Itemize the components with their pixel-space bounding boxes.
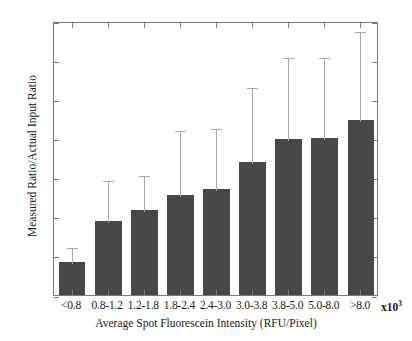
- error-bar-line: [72, 248, 73, 264]
- error-bar-cap: [67, 248, 78, 249]
- x-tick-mark: [216, 290, 217, 295]
- bar: [167, 195, 194, 295]
- y-tick-mark: [54, 257, 59, 258]
- x-tick-label: 5.0-8.0: [306, 299, 342, 311]
- x-tick-mark: [72, 23, 73, 28]
- error-bar-cap: [103, 181, 114, 182]
- y-tick-mark: [54, 101, 59, 102]
- y-tick-mark: [372, 297, 377, 298]
- x-tick-mark: [360, 290, 361, 295]
- x-tick-mark: [288, 23, 289, 28]
- error-bar-line: [324, 58, 325, 140]
- x-tick-mark: [180, 23, 181, 28]
- x-tick-mark: [324, 290, 325, 295]
- y-axis-title: Measured Ratio/Actual Input Ratio: [26, 36, 38, 276]
- x-tick-mark: [144, 23, 145, 28]
- x-tick-mark: [216, 23, 217, 28]
- x-tick-mark: [360, 23, 361, 28]
- y-tick-mark: [372, 23, 377, 24]
- plot-area: [53, 22, 378, 296]
- x-tick-mark: [72, 290, 73, 295]
- bar: [311, 138, 338, 295]
- error-bar-line: [180, 131, 181, 197]
- error-bar-cap: [139, 176, 150, 177]
- bar: [239, 162, 266, 295]
- x-tick-label: 1.2-1.8: [125, 299, 161, 311]
- y-tick-mark: [54, 297, 59, 298]
- x-tick-mark: [180, 290, 181, 295]
- y-tick-mark: [372, 101, 377, 102]
- x-tick-label: 3.0-3.8: [234, 299, 270, 311]
- x-tick-mark: [108, 290, 109, 295]
- y-tick-mark: [54, 62, 59, 63]
- error-bar-cap: [211, 129, 222, 130]
- x-tick-label: 3.8-5.0: [270, 299, 306, 311]
- y-tick-mark: [372, 62, 377, 63]
- x-tick-mark: [108, 23, 109, 28]
- bar: [203, 189, 230, 295]
- y-tick-mark: [54, 23, 59, 24]
- x-tick-label: 1.8-2.4: [161, 299, 197, 311]
- bar: [275, 139, 302, 295]
- error-bar-cap: [283, 58, 294, 59]
- x-axis-multiplier-base: x10: [381, 301, 398, 313]
- y-tick-mark: [54, 179, 59, 180]
- error-bar-line: [288, 58, 289, 141]
- error-bar-line: [144, 176, 145, 212]
- bar: [95, 221, 122, 295]
- error-bar-cap: [355, 32, 366, 33]
- y-tick-mark: [54, 218, 59, 219]
- x-tick-mark: [324, 23, 325, 28]
- x-tick-mark: [288, 290, 289, 295]
- error-bar-cap: [247, 88, 258, 89]
- x-tick-label: 2.4-3.0: [197, 299, 233, 311]
- error-bar-cap: [175, 131, 186, 132]
- error-bar-line: [252, 88, 253, 164]
- x-tick-mark: [252, 290, 253, 295]
- x-tick-label: 0.8-1.2: [89, 299, 125, 311]
- y-tick-mark: [54, 140, 59, 141]
- x-axis-multiplier: x103: [381, 299, 402, 313]
- x-tick-label: >8.0: [342, 299, 378, 311]
- error-bar-line: [108, 181, 109, 223]
- x-axis-title: Average Spot Fluorescein Intensity (RFU/…: [0, 317, 412, 329]
- x-tick-mark: [252, 23, 253, 28]
- x-tick-mark: [144, 290, 145, 295]
- x-axis-multiplier-exponent: 3: [398, 299, 402, 308]
- error-bar-line: [360, 32, 361, 121]
- error-bar-line: [216, 129, 217, 192]
- x-tick-label: <0.8: [53, 299, 89, 311]
- bar-chart-figure: Measured Ratio/Actual Input Ratio Averag…: [0, 0, 412, 341]
- bar: [131, 210, 158, 295]
- bar: [348, 120, 375, 295]
- error-bar-cap: [319, 58, 330, 59]
